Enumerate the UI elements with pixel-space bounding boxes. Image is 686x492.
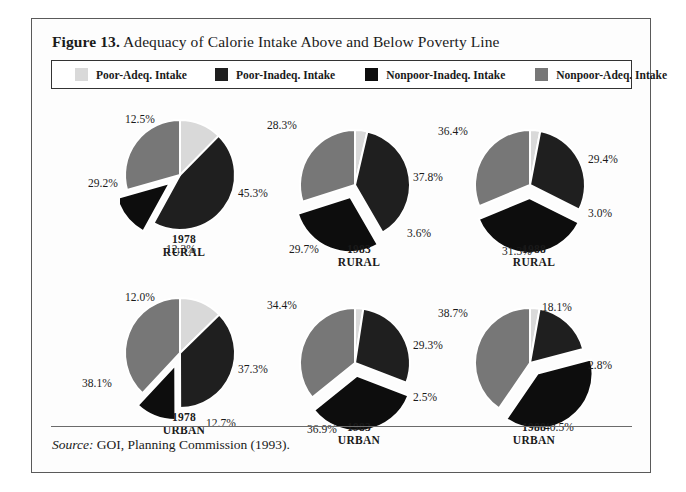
pie-slice <box>355 131 410 232</box>
pie-slice-label: 2.5% <box>413 391 437 403</box>
source-note: Source: GOI, Planning Commission (1993). <box>52 437 290 453</box>
pie-panel-1988-rural: 3.0%29.4%36.4%31.3%1988RURAL <box>470 125 598 293</box>
pie-caption-year: 1988 <box>470 421 598 434</box>
pie-caption: 1983RURAL <box>295 243 423 269</box>
legend-item-poor-adeq: Poor-Adeq. Intake <box>75 68 187 81</box>
pie-caption: 1988URBAN <box>470 421 598 447</box>
pie-slice-label: 12.0% <box>125 291 155 303</box>
pie-slice-label: 38.1% <box>82 377 112 389</box>
figure-title-text: Adequacy of Calorie Intake Above and Bel… <box>123 33 500 50</box>
pie-panel-1988-urban: 2.8%18.1%38.7%40.5%1988URBAN <box>470 303 598 471</box>
pie-slice-label: 3.6% <box>407 227 431 239</box>
pie-slice-label: 29.2% <box>88 177 118 189</box>
pie-svg <box>470 303 598 431</box>
pie-svg <box>120 115 248 243</box>
legend-label-nonpoor-adeq: Nonpoor-Adeq. Intake <box>556 69 667 81</box>
legend-swatch-nonpoor-adeq <box>535 68 548 81</box>
pie-slice <box>530 131 585 210</box>
pie-slice-label: 37.3% <box>238 363 268 375</box>
legend-item-nonpoor-adeq: Nonpoor-Adeq. Intake <box>535 68 667 81</box>
pie-slice-label: 29.3% <box>413 339 443 351</box>
legend-label-poor-inadeq: Poor-Inadeq. Intake <box>236 69 335 81</box>
pie-slice-label: 36.4% <box>438 125 468 137</box>
pie-caption-sector: URBAN <box>295 434 423 447</box>
pie-svg <box>470 125 598 253</box>
pie-caption-year: 1983 <box>295 243 423 256</box>
legend: Poor-Adeq. Intake Poor-Inadeq. Intake No… <box>51 60 632 89</box>
pie-caption: 1978URBAN <box>120 411 248 437</box>
figure-number: Figure 13. <box>52 33 120 50</box>
pie-chart-grid: 12.3%45.3%12.5%29.2%1978RURAL3.6%37.8%28… <box>32 93 650 423</box>
legend-swatch-poor-adeq <box>75 68 88 81</box>
pie-caption-year: 1978 <box>120 233 248 246</box>
pie-caption-year: 1978 <box>120 411 248 424</box>
pie-slice-label: 3.0% <box>588 207 612 219</box>
pie-panel-1978-urban: 12.7%37.3%12.0%38.1%1978URBAN <box>120 293 248 461</box>
pie-slice-label: 29.4% <box>588 153 618 165</box>
legend-swatch-poor-inadeq <box>215 68 228 81</box>
pie-caption-year: 1988 <box>470 243 598 256</box>
source-divider <box>51 426 632 427</box>
pie-caption-sector: URBAN <box>470 434 598 447</box>
pie-slice-label: 37.8% <box>413 171 443 183</box>
pie-svg <box>295 125 423 253</box>
pie-caption: 1988RURAL <box>470 243 598 269</box>
pie-svg <box>120 293 248 421</box>
pie-svg <box>295 303 423 431</box>
pie-slice <box>475 130 530 206</box>
pie-slice <box>125 120 180 190</box>
pie-slice <box>300 130 355 202</box>
pie-caption: 1983URBAN <box>295 421 423 447</box>
pie-slice-label: 2.8% <box>588 359 612 371</box>
pie-slice-label: 38.7% <box>438 307 468 319</box>
legend-label-poor-adeq: Poor-Adeq. Intake <box>96 69 187 81</box>
pie-caption-sector: RURAL <box>120 246 248 259</box>
pie-caption-sector: RURAL <box>470 256 598 269</box>
pie-slice-label: 45.3% <box>238 187 268 199</box>
pie-caption-sector: RURAL <box>295 256 423 269</box>
legend-swatch-nonpoor-inadeq <box>365 68 378 81</box>
pie-slice <box>475 308 530 408</box>
pie-slice-label: 34.4% <box>267 299 297 311</box>
pie-panel-1983-rural: 3.6%37.8%28.3%29.7%1983RURAL <box>295 125 423 293</box>
pie-caption-year: 1983 <box>295 421 423 434</box>
pie-slice-label: 28.3% <box>267 119 297 131</box>
pie-slice-label: 18.1% <box>542 301 572 313</box>
pie-slice <box>355 309 410 383</box>
pie-slice <box>530 309 583 363</box>
pie-caption: 1978RURAL <box>120 233 248 259</box>
pie-panel-1978-rural: 12.3%45.3%12.5%29.2%1978RURAL <box>120 115 248 283</box>
source-text: GOI, Planning Commission (1993). <box>97 437 290 452</box>
source-keyword: Source: <box>52 437 93 452</box>
figure-title: Figure 13. Adequacy of Calorie Intake Ab… <box>52 33 500 51</box>
pie-slice-label: 12.5% <box>125 113 155 125</box>
legend-item-nonpoor-inadeq: Nonpoor-Inadeq. Intake <box>365 68 505 81</box>
figure-frame: Figure 13. Adequacy of Calorie Intake Ab… <box>31 18 651 473</box>
legend-item-poor-inadeq: Poor-Inadeq. Intake <box>215 68 335 81</box>
pie-panel-1983-urban: 2.5%29.3%34.4%36.9%1983URBAN <box>295 303 423 471</box>
legend-label-nonpoor-inadeq: Nonpoor-Inadeq. Intake <box>386 69 505 81</box>
